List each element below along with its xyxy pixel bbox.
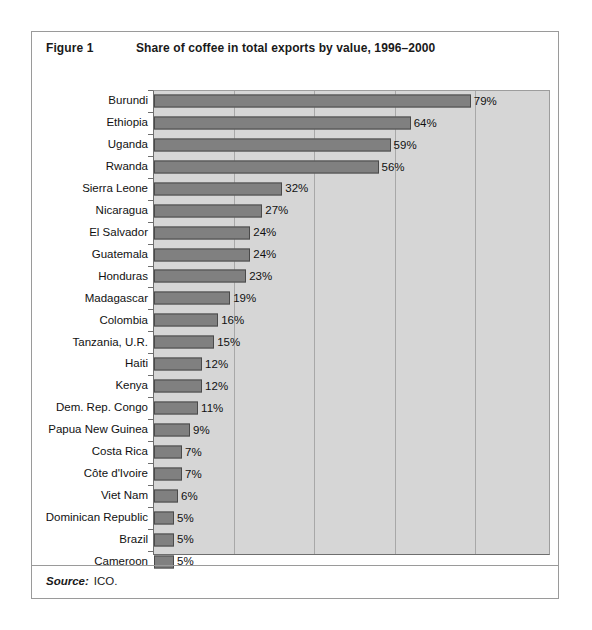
bar-group: 12% [154,380,228,393]
source-label: Source: [46,575,89,587]
source-divider [32,565,558,566]
bar [154,160,379,173]
bar-group: 64% [154,116,437,129]
bar-value-label: 5% [177,534,194,546]
category-label: El Salvador [0,227,148,239]
bar-group: 12% [154,358,228,371]
bar [154,358,202,371]
bar-group: 9% [154,424,210,437]
chart-row: Dem. Rep. Congo11% [32,397,550,419]
category-label: Dem. Rep. Congo [0,402,148,414]
chart-row: Guatemala24% [32,244,550,266]
bar-value-label: 16% [221,315,244,327]
chart-row: Papua New Guinea9% [32,419,550,441]
axis-tick [148,419,153,420]
bar-group: 7% [154,445,202,458]
bar-group: 19% [154,292,256,305]
bar-value-label: 24% [253,227,276,239]
bar-value-label: 5% [177,512,194,524]
chart-row: El Salvador24% [32,222,550,244]
bar [154,467,182,480]
category-label: Papua New Guinea [0,424,148,436]
bar-group: 6% [154,489,198,502]
chart-row: Tanzania, U.R.15% [32,331,550,353]
chart-row: Côte d'Ivoire7% [32,463,550,485]
axis-tick [148,441,153,442]
bar [154,116,411,129]
bar [154,138,391,151]
axis-tick [148,529,153,530]
bar [154,226,250,239]
axis-tick [148,244,153,245]
chart-row: Burundi79% [32,90,550,112]
category-label: Haiti [0,358,148,370]
bar-value-label: 12% [205,358,228,370]
category-label: Viet Nam [0,490,148,502]
chart-row: Viet Nam6% [32,485,550,507]
bar-group: 11% [154,402,223,415]
bar-value-label: 23% [249,271,272,283]
bar [154,489,178,502]
category-label: Rwanda [0,161,148,173]
bar-value-label: 56% [382,161,405,173]
bar-value-label: 12% [205,380,228,392]
category-label: Burundi [0,95,148,107]
chart-rows: Burundi79%Ethiopia64%Uganda59%Rwanda56%S… [32,90,550,555]
bar-value-label: 24% [253,249,276,261]
axis-tick [148,485,153,486]
figure-number-label: Figure 1 [46,41,93,55]
bar [154,204,262,217]
category-label: Madagascar [0,293,148,305]
bar-group: 7% [154,467,202,480]
category-label: Costa Rica [0,446,148,458]
chart-row: Kenya12% [32,375,550,397]
bar-value-label: 59% [394,139,417,151]
bar-group: 5% [154,533,194,546]
axis-tick [148,375,153,376]
bar [154,511,174,524]
bar-value-label: 32% [285,183,308,195]
bar [154,94,471,107]
bar-group: 15% [154,336,240,349]
axis-tick [148,463,153,464]
bar [154,336,214,349]
bar-group: 24% [154,248,276,261]
bar [154,402,198,415]
axis-tick [148,134,153,135]
category-label: Colombia [0,315,148,327]
bar [154,555,174,568]
bar [154,270,246,283]
axis-tick [148,112,153,113]
chart-row: Colombia16% [32,309,550,331]
chart-row: Honduras23% [32,266,550,288]
bar [154,248,250,261]
axis-tick [148,507,153,508]
category-label: Dominican Republic [0,512,148,524]
bar-value-label: 11% [201,402,223,414]
bar-value-label: 79% [474,95,497,107]
figure-header: Figure 1 Share of coffee in total export… [32,32,558,65]
axis-tick [148,222,153,223]
chart-row: Sierra Leone32% [32,178,550,200]
bar-value-label: 27% [265,205,288,217]
category-label: Nicaragua [0,205,148,217]
bar-group: 59% [154,138,417,151]
chart-row: Ethiopia64% [32,112,550,134]
bar-group: 5% [154,555,194,568]
bar-value-label: 19% [233,293,256,305]
bar [154,424,190,437]
bar [154,380,202,393]
source-value: ICO. [94,575,118,587]
bar-value-label: 6% [181,490,198,502]
category-label: Kenya [0,380,148,392]
source-note: Source: ICO. [46,575,117,587]
bar-group: 79% [154,94,497,107]
bar-group: 27% [154,204,288,217]
bar [154,314,218,327]
bar-value-label: 9% [193,424,210,436]
axis-tick [148,551,153,552]
chart-row: Rwanda56% [32,156,550,178]
bar-value-label: 15% [217,337,240,349]
axis-tick [148,331,153,332]
chart-row: Cameroon5% [32,551,550,573]
